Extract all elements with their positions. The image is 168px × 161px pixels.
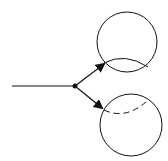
split-diagram — [0, 0, 168, 161]
lower-circle — [100, 94, 162, 156]
upper-circle-solid-arc — [104, 58, 148, 67]
lower-circle-dashed-arc — [104, 102, 146, 114]
upper-circle — [97, 12, 157, 72]
lower-arrow — [75, 86, 102, 108]
upper-arrow — [75, 64, 104, 86]
